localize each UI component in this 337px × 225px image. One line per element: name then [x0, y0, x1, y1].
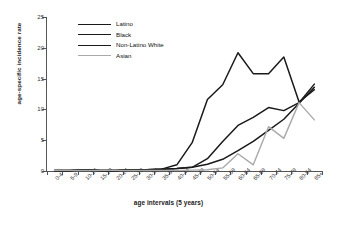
- y-tick-label: 5: [41, 137, 44, 143]
- legend-swatch-non-latino-white: [78, 45, 111, 46]
- series-line-black: [55, 84, 315, 170]
- chart-container: age-specific incidence rate age interval…: [0, 0, 337, 225]
- y-tick-label: 15: [37, 76, 44, 82]
- y-tick-label: 25: [37, 14, 44, 20]
- legend-swatch-asian: [78, 55, 111, 56]
- x-axis-title: age intervals (5 years): [0, 199, 337, 206]
- legend-swatch-black: [78, 34, 111, 35]
- legend-item-latino: Latino: [78, 19, 164, 30]
- series-line-non-latino-white: [55, 87, 315, 170]
- x-tick-mark: [47, 171, 48, 175]
- y-tick-label: 0: [41, 168, 44, 174]
- legend-item-black: Black: [78, 30, 164, 41]
- series-line-latino: [55, 53, 315, 171]
- x-tick-label: 0-4: [54, 171, 64, 181]
- y-tick-label: 10: [37, 106, 44, 112]
- y-axis-title: age-specific incidence rate: [15, 0, 22, 134]
- y-tick-label: 20: [37, 45, 44, 51]
- legend-label-non-latino-white: Non-Latino White: [116, 42, 164, 48]
- legend-label-latino: Latino: [116, 21, 133, 27]
- chart-legend: Latino Black Non-Latino White Asian: [78, 19, 164, 61]
- legend-label-black: Black: [116, 32, 131, 38]
- legend-item-asian: Asian: [78, 51, 164, 62]
- legend-item-non-latino-white: Non-Latino White: [78, 40, 164, 51]
- series-line-asian: [55, 103, 315, 171]
- legend-label-asian: Asian: [116, 53, 131, 59]
- legend-swatch-latino: [78, 24, 111, 25]
